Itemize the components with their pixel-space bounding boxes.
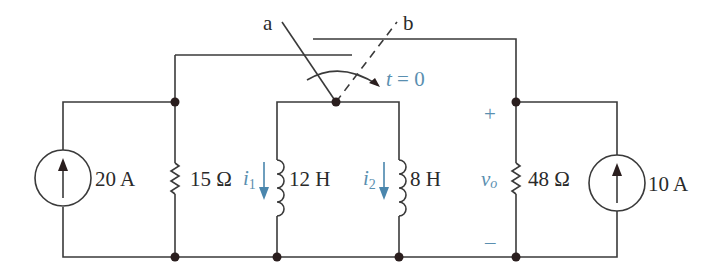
right-top-wire — [516, 102, 617, 155]
resistor-15-ohm: 15 Ω — [171, 55, 232, 257]
node — [171, 253, 180, 262]
node — [512, 253, 521, 262]
voltage-vo-label: vo — [481, 167, 497, 191]
resistor-48-ohm: 48 Ω — [512, 102, 570, 257]
switch-terminal-a: a — [263, 11, 273, 35]
arc-arrowhead-icon — [369, 78, 380, 87]
node — [512, 98, 521, 107]
switch-pivot-node — [332, 98, 341, 107]
current-i2-label: i2 — [363, 166, 376, 192]
node — [171, 98, 180, 107]
arrowhead-icon — [379, 187, 389, 200]
inductor-8h: 8 H — [399, 160, 441, 257]
circuit-diagram: 20 A 15 Ω a b t = 0 12 H i1 8 — [0, 0, 716, 277]
resistor-15-label: 15 Ω — [190, 167, 232, 191]
switch-motion-arc — [307, 71, 378, 85]
current-source-10a: 10 A — [589, 155, 689, 211]
polarity-minus: – — [484, 230, 496, 254]
inductor-top-wire — [277, 102, 399, 160]
node — [273, 253, 282, 262]
source-10a-label: 10 A — [648, 172, 689, 196]
inductor-8h-label: 8 H — [410, 167, 441, 191]
switch-blade-a — [282, 22, 336, 102]
switch-terminal-b: b — [403, 11, 414, 35]
current-i2-indicator: i2 — [363, 162, 389, 200]
inductor-12h-label: 12 H — [289, 167, 330, 191]
inductor-12h: 12 H — [277, 160, 330, 257]
switch-time-label: t = 0 — [386, 67, 425, 91]
current-i1-indicator: i1 — [243, 162, 269, 200]
current-source-20a: 20 A — [35, 150, 136, 206]
polarity-plus: + — [484, 102, 496, 126]
node — [395, 253, 404, 262]
switch[interactable]: a — [263, 11, 397, 102]
arrow-head-icon — [612, 163, 622, 176]
current-i1-label: i1 — [243, 166, 256, 192]
resistor-48-label: 48 Ω — [528, 167, 570, 191]
arrow-head-icon — [58, 158, 68, 171]
source-20a-label: 20 A — [95, 167, 136, 191]
arrowhead-icon — [259, 187, 269, 200]
bottom-rail — [175, 211, 617, 257]
